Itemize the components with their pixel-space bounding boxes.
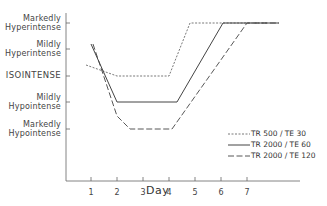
legend: TR 500 / TE 30 TR 2000 / TE 60 TR 2000 /…	[228, 128, 316, 161]
x-tick-label: 3	[140, 188, 145, 197]
y-label-markedly-hypointense: MarkedlyHypointense	[9, 120, 61, 138]
y-label-markedly-hyperintense: MarkedlyHyperintense	[5, 14, 61, 32]
x-tick-label: 5	[192, 188, 197, 197]
mri-signal-chart: MarkedlyHyperintense MildlyHyperintense …	[0, 0, 327, 206]
legend-item-tr2000-te120: TR 2000 / TE 120	[228, 150, 316, 161]
x-tick-label: 6	[218, 188, 223, 197]
long-dash-swatch-icon	[228, 154, 250, 158]
solid-line-swatch-icon	[228, 143, 250, 147]
x-ticks	[91, 177, 247, 181]
legend-item-tr2000-te60: TR 2000 / TE 60	[228, 139, 316, 150]
short-dash-swatch-icon	[228, 132, 250, 136]
y-label-isointense: ISOINTENSE	[6, 71, 61, 80]
series-tr500-te30	[86, 23, 268, 76]
legend-item-tr500-te30: TR 500 / TE 30	[228, 128, 316, 139]
x-tick-label: 7	[244, 188, 249, 197]
y-ticks	[66, 23, 70, 129]
x-axis-title: Day	[146, 184, 169, 197]
y-label-mildly-hyperintense: MildlyHyperintense	[5, 40, 61, 58]
x-tick-label: 1	[88, 188, 93, 197]
y-label-mildly-hypointense: MildlyHypointense	[9, 93, 61, 111]
series-tr2000-te60	[91, 23, 279, 102]
x-tick-label: 2	[114, 188, 119, 197]
